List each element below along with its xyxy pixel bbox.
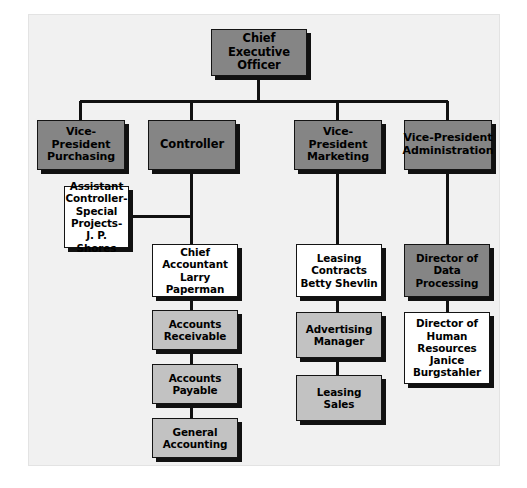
org-node-vp-administration[interactable]: Vice-President Administration <box>404 120 492 170</box>
org-node-leasing-sales[interactable]: Leasing Sales <box>296 375 382 421</box>
org-node-label: General Accounting <box>160 426 231 451</box>
org-node-accounts-receivable[interactable]: Accounts Receivable <box>152 310 238 350</box>
org-chart: Chief Executive OfficerVice-President Pu… <box>0 0 527 488</box>
connector-acct-link-3 <box>190 404 193 418</box>
org-node-label: Accounts Payable <box>166 372 225 397</box>
org-node-accounts-payable[interactable]: Accounts Payable <box>152 364 238 404</box>
org-node-label: Chief Executive Officer <box>212 32 306 73</box>
org-node-director-data-processing[interactable]: Director of Data Processing <box>404 244 490 297</box>
connector-level1-bus <box>80 100 448 103</box>
org-node-label: Leasing Sales <box>314 386 365 411</box>
org-node-controller[interactable]: Controller <box>148 120 236 170</box>
org-node-label: Vice-President Administration <box>400 132 497 158</box>
org-node-leasing-contracts[interactable]: Leasing Contracts Betty Shevlin <box>296 244 382 297</box>
connector-mkt-link-2 <box>336 358 339 375</box>
org-node-label: Director of Human Resources Janice Burgs… <box>410 317 484 378</box>
org-node-vp-marketing[interactable]: Vice-President Marketing <box>294 120 382 170</box>
connector-mkt-link-1 <box>336 297 339 312</box>
connector-drop-vp-marketing <box>336 101 339 120</box>
org-node-label: Advertising Manager <box>303 323 375 348</box>
org-node-ceo[interactable]: Chief Executive Officer <box>211 29 307 76</box>
connector-marketing-stem <box>336 170 339 244</box>
connector-drop-vp-admin <box>446 101 449 120</box>
org-node-label: Controller <box>157 138 227 152</box>
org-node-advertising-manager[interactable]: Advertising Manager <box>296 312 382 358</box>
connector-drop-vp-purchasing <box>79 101 82 120</box>
connector-acct-link-1 <box>190 297 193 310</box>
org-node-label: Vice-President Marketing <box>295 126 381 165</box>
org-node-vp-purchasing[interactable]: Vice-President Purchasing <box>37 120 125 170</box>
connector-drop-controller <box>190 101 193 120</box>
org-node-chief-accountant[interactable]: Chief Accountant Larry Paperman <box>152 244 238 297</box>
connector-controller-stem <box>190 170 193 244</box>
connector-ceo-stem <box>257 76 260 103</box>
org-node-director-human-resources[interactable]: Director of Human Resources Janice Burgs… <box>404 312 490 384</box>
org-node-label: Accounts Receivable <box>161 318 230 343</box>
org-node-label: Director of Data Processing <box>413 252 482 289</box>
org-node-assistant-controller[interactable]: Assistant Controller- Special Projects- … <box>64 186 129 248</box>
org-node-label: Vice-President Purchasing <box>38 126 124 165</box>
org-node-label: Assistant Controller- Special Projects- … <box>63 180 131 254</box>
org-node-label: Leasing Contracts Betty Shevlin <box>297 252 380 289</box>
org-node-label: Chief Accountant Larry Paperman <box>153 246 237 295</box>
connector-acct-link-2 <box>190 350 193 364</box>
connector-admin-link-1 <box>446 297 449 312</box>
connector-admin-stem <box>446 170 449 244</box>
org-node-general-accounting[interactable]: General Accounting <box>152 418 238 458</box>
connector-assistant-tie <box>129 215 191 218</box>
